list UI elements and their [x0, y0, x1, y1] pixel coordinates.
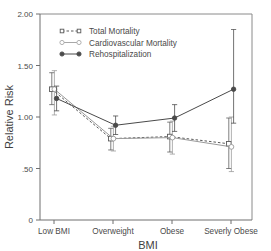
data-point-marker [52, 87, 57, 92]
y-tick-label-100: 1.00 [17, 113, 33, 122]
x-category-low-bmi: Low BMI [38, 227, 70, 236]
data-point-marker [54, 96, 58, 100]
y-tick-label-0: 0 [29, 216, 34, 225]
data-point-marker [170, 135, 175, 140]
data-point-marker [231, 87, 235, 91]
legend-label-total-mortality: Total Mortality [89, 27, 140, 36]
legend-label-rehospitalization: Rehospitalization [89, 50, 152, 59]
x-category-severly-obese: Severly Obese [204, 227, 258, 236]
data-point-marker [229, 144, 234, 149]
relative-risk-chart: 0 .50 1.00 1.50 2.00 Low BMI Overweight … [0, 0, 271, 251]
y-tick-label-150: 1.50 [17, 62, 33, 71]
y-axis-title: Relative Risk [3, 84, 15, 149]
data-point-marker [111, 136, 116, 141]
data-point-marker [172, 116, 176, 120]
legend-label-cardiovascular-mortality: Cardiovascular Mortality [89, 39, 178, 48]
data-point-marker [113, 123, 117, 127]
x-category-overweight: Overweight [92, 227, 134, 236]
chart-canvas: 0 .50 1.00 1.50 2.00 Low BMI Overweight … [0, 0, 271, 251]
y-tick-label-050: .50 [22, 165, 34, 174]
x-axis-title: BMI [138, 239, 158, 251]
x-category-obese: Obese [160, 227, 185, 236]
y-tick-label-200: 2.00 [17, 10, 33, 19]
